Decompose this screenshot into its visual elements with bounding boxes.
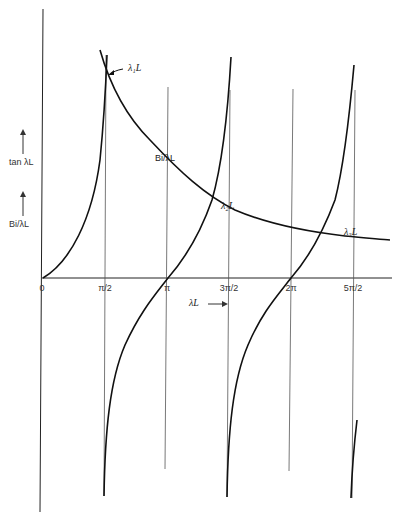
lambda3-label: λ₃L (344, 226, 357, 237)
tick-0: 0 (39, 283, 44, 293)
tan-branch-3 (227, 65, 354, 497)
xlabel-arrowhead (222, 301, 228, 307)
bi-curve (100, 50, 390, 240)
bi-curve-label: Bi/λL (155, 153, 175, 163)
bi-arrowhead (20, 191, 26, 197)
y-axis (40, 9, 43, 512)
y-label-tan: tan λL (9, 157, 34, 167)
lambda1-label: λ₁L (128, 62, 141, 73)
tick-pi-2: π/2 (98, 283, 112, 293)
x-axis-label: λL (189, 297, 199, 308)
tick-pi: π (164, 283, 170, 293)
tan-branch-1 (43, 55, 107, 278)
tick-3pi-2: 3π/2 (220, 283, 239, 293)
gridline-pi-2 (104, 55, 106, 496)
tan-arrowhead (20, 129, 26, 135)
lambda1-arrowhead (108, 70, 114, 75)
chart-plot (0, 0, 394, 520)
lambda2-label: λ₂L (221, 200, 234, 211)
tick-5pi-2: 5π/2 (344, 283, 363, 293)
y-label-bi: Bi/λL (9, 219, 29, 229)
tick-2pi: 2π (285, 283, 296, 293)
